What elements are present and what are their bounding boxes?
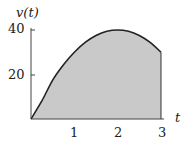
x-tick-label-2: 2 [114,125,122,140]
area-under-curve [31,30,161,119]
y-tick-label-20: 20 [8,67,25,82]
x-axis-label: t [175,110,181,125]
x-tick-label-1: 1 [70,125,78,140]
velocity-chart: v(t) 40 20 1 2 3 t [0,0,183,144]
y-tick-label-40: 40 [8,21,25,36]
x-tick-label-3: 3 [158,125,166,140]
y-axis-label: v(t) [16,5,39,20]
